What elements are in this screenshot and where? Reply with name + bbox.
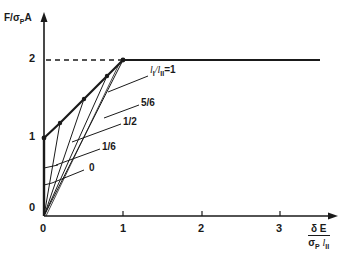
y-tick-label-1: 1 — [29, 130, 35, 142]
marker-point — [105, 74, 109, 78]
marker-point — [58, 121, 62, 125]
chart-canvas — [0, 0, 349, 262]
leader-0 — [52, 170, 84, 183]
curve-label-0: 0 — [89, 162, 95, 173]
x-tick-label-3: 3 — [276, 222, 282, 234]
leader-1-2 — [72, 124, 121, 142]
x-axis-label: δ E σP lII — [308, 223, 330, 250]
marker-point — [82, 97, 86, 101]
y-axis-label: F/σPA — [4, 12, 32, 25]
curve-label-1-6: 1/6 — [102, 141, 116, 152]
x-axis-arrow-icon — [328, 213, 338, 220]
kink-b — [44, 165, 58, 168]
curve-label-ratio-1: lI/lII=1 — [150, 64, 176, 77]
x-axis-label-denominator: σP lII — [308, 236, 330, 250]
y-axis-arrow-icon — [41, 12, 48, 22]
x-tick-label-2: 2 — [198, 222, 204, 234]
y-tick-label-2: 2 — [29, 52, 35, 64]
x-tick-label-0: 0 — [40, 222, 46, 234]
x-tick-label-1: 1 — [120, 222, 126, 234]
curve-label-5-6: 5/6 — [141, 97, 155, 108]
marker-point — [42, 136, 47, 141]
x-axis-label-numerator: δ E — [308, 223, 330, 236]
y-tick-label-0: 0 — [29, 201, 35, 213]
curve-label-1-2: 1/2 — [123, 116, 137, 127]
marker-point — [121, 58, 126, 63]
